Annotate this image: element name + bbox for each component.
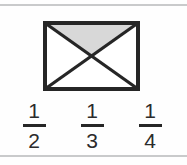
rectangle-diagonals-svg	[43, 21, 140, 91]
option-b-fraction-bar	[81, 124, 104, 127]
option-b-denominator: 3	[86, 130, 98, 152]
answer-option-a[interactable]: 1 2	[6, 100, 62, 152]
option-a-fraction-bar	[23, 124, 46, 127]
option-a-numerator: 1	[28, 100, 40, 122]
top-divider-rule	[0, 4, 187, 6]
bottom-divider-rule	[0, 155, 187, 157]
question-figure-page: 1 2 1 3 1 4	[0, 0, 187, 165]
answer-option-b[interactable]: 1 3	[64, 100, 120, 152]
answer-option-c[interactable]: 1 4	[122, 100, 178, 152]
answer-options-row: 1 2 1 3 1 4	[0, 100, 187, 152]
option-b-numerator: 1	[86, 100, 98, 122]
option-a-denominator: 2	[28, 130, 40, 152]
shaded-fraction-figure	[43, 21, 140, 91]
option-c-numerator: 1	[144, 100, 156, 122]
option-c-fraction-bar	[139, 124, 162, 127]
option-c-denominator: 4	[144, 130, 156, 152]
